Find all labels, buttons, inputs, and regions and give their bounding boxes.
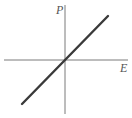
x-axis-label: E <box>119 61 128 75</box>
pe-diagram: P E <box>0 0 132 118</box>
y-axis-label: P <box>55 3 64 17</box>
